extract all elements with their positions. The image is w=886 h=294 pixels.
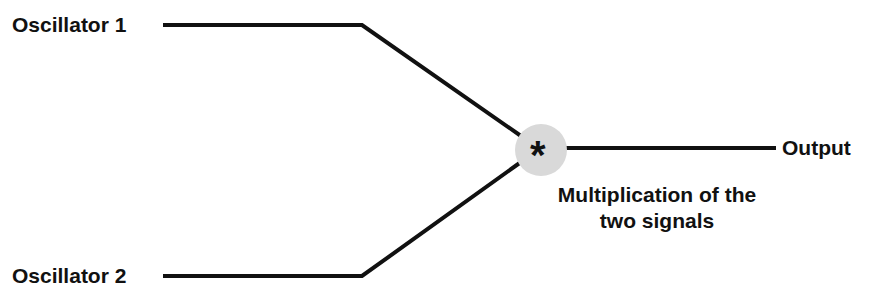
caption-line-1: Multiplication of the bbox=[517, 182, 797, 208]
oscillator-1-wire bbox=[163, 25, 521, 136]
multiplication-caption: Multiplication of the two signals bbox=[517, 182, 797, 234]
output-label: Output bbox=[782, 137, 851, 158]
multiply-symbol-icon: * bbox=[530, 135, 546, 175]
oscillator-2-wire bbox=[163, 162, 521, 276]
caption-line-2: two signals bbox=[517, 208, 797, 234]
diagram-canvas bbox=[0, 0, 886, 294]
oscillator-2-label: Oscillator 2 bbox=[12, 265, 126, 286]
oscillator-1-label: Oscillator 1 bbox=[12, 14, 126, 35]
